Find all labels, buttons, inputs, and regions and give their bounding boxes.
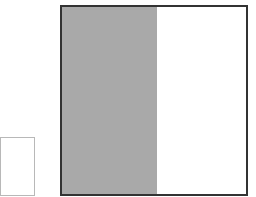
- shaded-region: [62, 7, 157, 194]
- large-square: [60, 5, 248, 196]
- small-square: [0, 137, 35, 196]
